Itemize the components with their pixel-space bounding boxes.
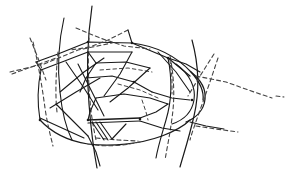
figure-background	[0, 0, 295, 170]
node-bar-left	[87, 119, 90, 122]
node-bar-right	[139, 118, 142, 121]
node-right-shoulder	[167, 57, 170, 60]
node-lower-left	[39, 119, 42, 122]
node-nose-tip	[191, 99, 194, 102]
node-top-apex	[87, 41, 90, 44]
node-top-right	[131, 42, 134, 45]
node-ridge-mid	[133, 81, 136, 84]
figure-root	[0, 0, 295, 170]
line-diagram-canvas	[0, 0, 295, 170]
